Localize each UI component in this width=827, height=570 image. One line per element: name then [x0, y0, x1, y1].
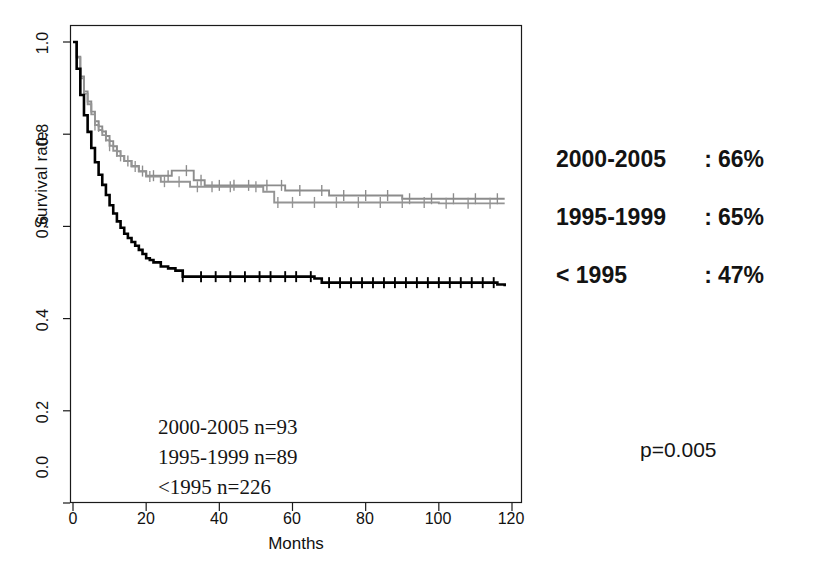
- legend-value-2000-2005: 66%: [718, 146, 764, 173]
- y-tick-label-0-0: 0.0: [34, 444, 52, 490]
- legend-separator-1995-1999: :: [698, 204, 718, 231]
- legend-period-pre-1995: < 1995: [556, 262, 698, 289]
- legend-value-pre-1995: 47%: [718, 262, 764, 289]
- x-tick-label-60: 60: [262, 510, 322, 528]
- y-tick-label-1-0: 1.0: [34, 20, 52, 66]
- legend-row-2000-2005: 2000-2005 : 66%: [556, 146, 827, 204]
- y-tick-label-0-8: 0.8: [34, 112, 52, 158]
- kaplan-meier-figure: 2000-2005 n=93 1995-1999 n=89 <1995 n=22…: [0, 0, 827, 570]
- legend-period-2000-2005: 2000-2005: [556, 146, 698, 173]
- y-tick-label-0-6: 0.6: [34, 204, 52, 250]
- legend-row-pre-1995: < 1995 : 47%: [556, 262, 827, 320]
- x-tick-label-0: 0: [43, 510, 103, 528]
- x-axis-title: Months: [236, 534, 356, 554]
- legend-row-1995-1999: 1995-1999 : 65%: [556, 204, 827, 262]
- p-value-label: p=0.005: [640, 438, 717, 462]
- legend-period-1995-1999: 1995-1999: [556, 204, 698, 231]
- plot-area: 2000-2005 n=93 1995-1999 n=89 <1995 n=22…: [70, 25, 522, 503]
- in-plot-sample-size-annotations: 2000-2005 n=93 1995-1999 n=89 <1995 n=22…: [158, 412, 298, 502]
- x-tick-label-20: 20: [116, 510, 176, 528]
- legend-separator-pre-1995: :: [698, 262, 718, 289]
- legend-separator-2000-2005: :: [698, 146, 718, 173]
- x-tick-label-80: 80: [335, 510, 395, 528]
- x-tick-label-40: 40: [189, 510, 249, 528]
- legend-value-1995-1999: 65%: [718, 204, 764, 231]
- y-tick-label-0-2: 0.2: [34, 389, 52, 435]
- annotation-pre-1995: <1995 n=226: [158, 472, 298, 502]
- x-tick-label-100: 100: [408, 510, 468, 528]
- x-tick-label-120: 120: [481, 510, 541, 528]
- y-tick-label-0-4: 0.4: [34, 297, 52, 343]
- annotation-2000-2005: 2000-2005 n=93: [158, 412, 298, 442]
- annotation-1995-1999: 1995-1999 n=89: [158, 442, 298, 472]
- survival-summary-legend: 2000-2005 : 66% 1995-1999 : 65% < 1995 :…: [556, 146, 827, 320]
